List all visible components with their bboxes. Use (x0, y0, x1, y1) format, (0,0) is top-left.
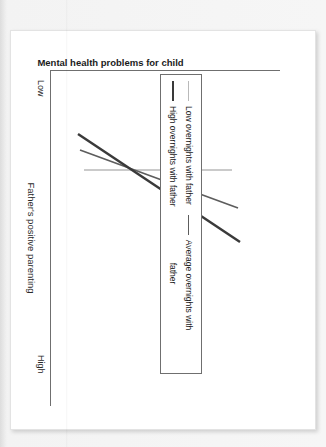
legend-label-average-cont: father (168, 263, 178, 285)
legend-item-high: High overnights with father (168, 81, 178, 207)
y-axis-title: Mental health problems for child (21, 57, 201, 68)
legend-item-average: Average overnights with (184, 215, 194, 331)
legend-row-top: Low overnights with father Average overn… (181, 81, 197, 367)
legend-label-average: Average overnights with (184, 240, 194, 331)
scan-edge-shading (0, 0, 8, 447)
legend-label-high: High overnights with father (168, 106, 178, 207)
legend-item-low: Low overnights with father (184, 81, 194, 205)
series-line-average (80, 150, 238, 208)
series-line-high (78, 134, 240, 242)
legend-line-icon-high (172, 81, 174, 101)
x-tick-low: Low (36, 80, 46, 97)
line-chart: Father's positive parenting Mental healt… (10, 30, 316, 430)
legend-label-low: Low overnights with father (184, 106, 194, 205)
rotated-chart-stage: Father's positive parenting Mental healt… (10, 30, 316, 430)
legend: Low overnights with father Average overn… (160, 74, 202, 374)
legend-line-icon-average (189, 215, 190, 235)
legend-line-icon-low (189, 81, 190, 101)
scan-crease (66, 0, 68, 447)
x-tick-high: High (36, 355, 46, 374)
legend-row-bottom: High overnights with father father (165, 81, 181, 367)
